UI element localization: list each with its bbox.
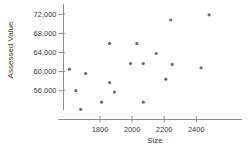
- y-axis-title: Assessed Value: [6, 21, 15, 78]
- data-point: [129, 62, 132, 65]
- y-tick-label: 64,000: [34, 48, 57, 57]
- data-point: [142, 101, 145, 104]
- scatter-plot: 56,00060,00064,00068,00072,000 180020002…: [0, 0, 248, 156]
- data-point: [200, 66, 203, 69]
- x-tick-label: 2000: [124, 125, 141, 134]
- data-point: [171, 63, 174, 66]
- data-point: [108, 42, 111, 45]
- data-point: [68, 68, 71, 71]
- x-axis-ticks: 1800200022002400: [92, 116, 205, 134]
- y-axis-ticks: 56,00060,00064,00068,00072,000: [34, 10, 65, 95]
- x-axis-title: Size: [147, 136, 163, 145]
- data-point: [135, 42, 138, 45]
- y-tick-label: 56,000: [34, 86, 57, 95]
- x-tick-label: 2200: [156, 125, 173, 134]
- data-point: [100, 101, 103, 104]
- data-point: [142, 62, 145, 65]
- data-point: [155, 52, 158, 55]
- data-point: [164, 78, 167, 81]
- data-point: [208, 13, 211, 16]
- y-tick-label: 68,000: [34, 29, 57, 38]
- data-point: [169, 18, 172, 21]
- data-point: [79, 108, 82, 111]
- y-tick-label: 60,000: [34, 67, 57, 76]
- data-points: [68, 13, 211, 111]
- data-point: [108, 81, 111, 84]
- chart-canvas: 56,00060,00064,00068,00072,000 180020002…: [0, 0, 248, 156]
- y-tick-label: 72,000: [34, 10, 57, 19]
- x-tick-label: 1800: [92, 125, 109, 134]
- x-tick-label: 2400: [188, 125, 205, 134]
- data-point: [74, 89, 77, 92]
- data-point: [113, 91, 116, 94]
- data-point: [84, 72, 87, 75]
